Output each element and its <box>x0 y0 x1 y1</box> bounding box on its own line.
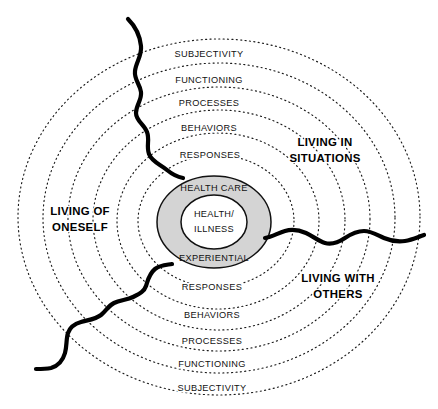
core-label-health-line1: HEALTH/ <box>194 209 234 219</box>
ring-label-bottom-functioning: FUNCTIONING <box>178 359 246 369</box>
domain-living-in-situations-line1: LIVING IN <box>297 136 352 148</box>
ring-label-top-functioning: FUNCTIONING <box>175 75 243 85</box>
core-label-experiential: EXPERIENTIAL <box>179 253 249 263</box>
ring-label-bottom-responses: RESPONSES <box>182 282 242 292</box>
domain-living-of-oneself-line1: LIVING OF <box>50 205 110 217</box>
ring-label-top-behaviors: BEHAVIORS <box>181 123 237 133</box>
ring-label-bottom-behaviors: BEHAVIORS <box>184 310 240 320</box>
ring-label-bottom-processes: PROCESSES <box>182 336 242 346</box>
core-label-illness-line2: ILLNESS <box>194 224 234 234</box>
concentric-rings-diagram: SUBJECTIVITY FUNCTIONING PROCESSES BEHAV… <box>0 0 438 409</box>
ring-label-top-subjectivity: SUBJECTIVITY <box>174 49 243 59</box>
ring-label-top-processes: PROCESSES <box>179 98 239 108</box>
domain-living-in-situations-line2: SITUATIONS <box>289 152 360 164</box>
domain-living-of-oneself-line2: ONESELF <box>52 221 108 233</box>
core-label-health-care: HEALTH CARE <box>180 183 248 193</box>
core-inner-circle <box>181 195 247 249</box>
domain-living-with-others-line1: LIVING WITH <box>301 272 375 284</box>
ring-label-top-responses: RESPONSES <box>180 150 240 160</box>
ring-label-bottom-subjectivity: SUBJECTIVITY <box>177 383 246 393</box>
domain-living-with-others-line2: OTHERS <box>313 288 362 300</box>
diagram-canvas: SUBJECTIVITY FUNCTIONING PROCESSES BEHAV… <box>0 0 438 409</box>
